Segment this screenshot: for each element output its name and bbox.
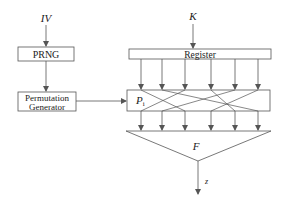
prng-label: PRNG [33, 49, 60, 60]
diagram-canvas: IV PRNG Permutation Generator K Register… [0, 0, 286, 204]
diagram-svg: IV PRNG Permutation Generator K Register… [0, 0, 286, 204]
output-z-label: z [204, 177, 209, 186]
register-label: Register [184, 50, 216, 60]
register-tap-arrows [141, 59, 258, 89]
k-label: K [188, 10, 197, 22]
permutation-generator-label-line2: Generator [29, 102, 65, 112]
iv-label: IV [40, 12, 53, 24]
permutation-output-arrows [141, 111, 258, 130]
function-f-label: F [192, 140, 200, 152]
